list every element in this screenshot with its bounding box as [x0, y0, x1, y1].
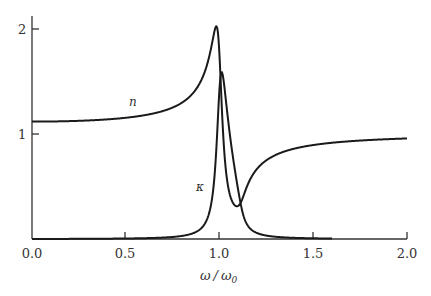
slash: /	[212, 268, 220, 283]
subscript-zero: 0	[232, 275, 238, 285]
y-tick-label-2: 2	[18, 22, 26, 37]
x-tick-label-0.0: 0.0	[22, 246, 43, 261]
x-tick-label-1.5: 1.5	[303, 246, 324, 261]
x-tick-label-2.0: 2.0	[397, 246, 418, 261]
curve-label-kappa: κ	[195, 180, 204, 194]
omega-symbol: ω	[221, 268, 232, 283]
x-tick-label-0.5: 0.5	[115, 246, 136, 261]
omega-symbol: ω	[200, 268, 211, 283]
curve-kappa	[32, 72, 332, 239]
y-tick-label-1: 1	[18, 127, 26, 142]
x-axis-title: ω/ω0	[200, 268, 238, 285]
x-tick-label-1.0: 1.0	[209, 246, 230, 261]
curve-label-n: n	[129, 95, 137, 109]
curve-n	[32, 26, 407, 206]
chart: 2 1 0.0 0.5 1.0 1.5 2.0 ω/ω0 n κ	[0, 0, 431, 296]
svg-text:ω/ω0: ω/ω0	[200, 268, 238, 285]
